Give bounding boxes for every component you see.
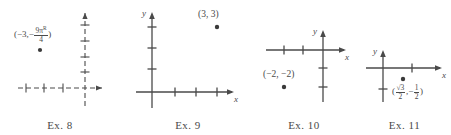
numerator-text: 9π	[35, 26, 43, 35]
y-axis-label: y	[142, 8, 146, 18]
fraction-denominator: 4	[34, 36, 47, 44]
label-minus-sign: −	[29, 29, 34, 39]
label-fraction: 9πR4	[34, 27, 47, 44]
label-close-paren: )	[420, 86, 423, 96]
y-axis-arrow	[380, 50, 386, 57]
y-axis-label: y	[373, 46, 377, 56]
label-fraction-x: √32	[396, 84, 406, 101]
x-axis-ticks	[26, 84, 63, 93]
label-close-paren: )	[48, 29, 51, 39]
fraction-x-denominator: 2	[396, 93, 406, 101]
point-label-ex-10: (−2, −2)	[263, 70, 294, 80]
x-axis-arrow	[96, 85, 102, 90]
x-axis-label: x	[442, 70, 446, 80]
label-x-value: −3,	[17, 29, 29, 39]
figure-ex-11: x y (√32,−12) Ex. 11	[358, 0, 451, 135]
plot-ex-10	[252, 0, 356, 112]
point-label-ex-11: (√32,−12)	[392, 84, 423, 101]
data-point	[401, 77, 405, 81]
figure-ex-10: x y (−2, −2) Ex. 10	[252, 0, 356, 135]
y-axis-label: y	[313, 26, 317, 36]
x-axis-label: x	[345, 52, 349, 62]
fraction-y-denominator: 2	[414, 93, 420, 101]
point-label-ex-9: (3, 3)	[198, 10, 219, 20]
data-point	[282, 85, 286, 89]
numerator-superscript: R	[43, 25, 47, 31]
data-point	[215, 25, 219, 29]
x-axis-label: x	[234, 94, 238, 104]
figure-ex-9: x y (3, 3) Ex. 9	[128, 0, 248, 135]
caption-ex-10: Ex. 10	[252, 119, 356, 131]
point-label-ex-8: (−3,−9πR4)	[14, 27, 51, 44]
label-minus-sign: −	[408, 86, 413, 96]
caption-ex-11: Ex. 11	[358, 119, 451, 131]
plot-ex-8	[0, 0, 120, 112]
y-axis-arrow	[82, 13, 87, 19]
y-axis-arrow	[320, 30, 326, 37]
plot-ex-9	[128, 0, 248, 112]
x-axis-arrow	[227, 89, 234, 95]
x-axis-arrow	[435, 65, 442, 71]
figure-ex-8: (−3,−9πR4) Ex. 8	[0, 0, 120, 135]
y-axis-arrow	[149, 12, 155, 19]
label-fraction-y: 12	[414, 84, 420, 101]
caption-ex-8: Ex. 8	[0, 119, 120, 131]
data-point	[38, 48, 42, 52]
caption-ex-9: Ex. 9	[128, 119, 248, 131]
